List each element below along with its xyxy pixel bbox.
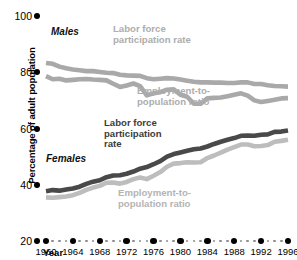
x-axis-tick-label: 1980 <box>165 246 195 257</box>
x-axis-tick-label: 1972 <box>112 246 142 257</box>
annotation-males-epr: Employment-to- population ratio <box>137 86 210 107</box>
x-axis-title: Year <box>43 247 63 258</box>
x-axis-tick-dot <box>204 238 211 245</box>
x-axis-minor-tick-dot <box>85 240 88 243</box>
annotation-females-group: Females <box>46 154 86 165</box>
x-axis-tick-dot <box>123 238 130 245</box>
annotation-females-lfpr: Labor force participation rate <box>104 118 162 150</box>
annotation-females-epr: Employment-to- population ratio <box>118 188 191 209</box>
x-axis-tick-label: 1968 <box>85 246 115 257</box>
chart-container: Percentage of adult population 100806040… <box>0 0 297 260</box>
annotation-males-group: Males <box>51 27 79 38</box>
x-axis-tick-label: 1988 <box>219 246 249 257</box>
x-axis-tick-dot <box>177 238 184 245</box>
x-axis-tick-label: 1992 <box>246 246 276 257</box>
x-axis-tick-label: 1976 <box>139 246 169 257</box>
x-axis-minor-tick-dot <box>273 240 276 243</box>
x-axis-minor-tick-dot <box>280 240 283 243</box>
x-axis-tick-label: 1984 <box>192 246 222 257</box>
annotation-males-lfpr: Labor force participation rate <box>113 24 191 45</box>
x-axis-minor-tick-dot <box>112 240 115 243</box>
x-axis-tick-dot <box>150 238 157 245</box>
series-line-1 <box>46 63 288 87</box>
x-axis-minor-tick-dot <box>253 240 256 243</box>
x-axis-minor-tick-dot <box>159 240 162 243</box>
x-axis-minor-tick-dot <box>132 240 135 243</box>
x-axis-tick-label: 1996 <box>273 246 297 257</box>
